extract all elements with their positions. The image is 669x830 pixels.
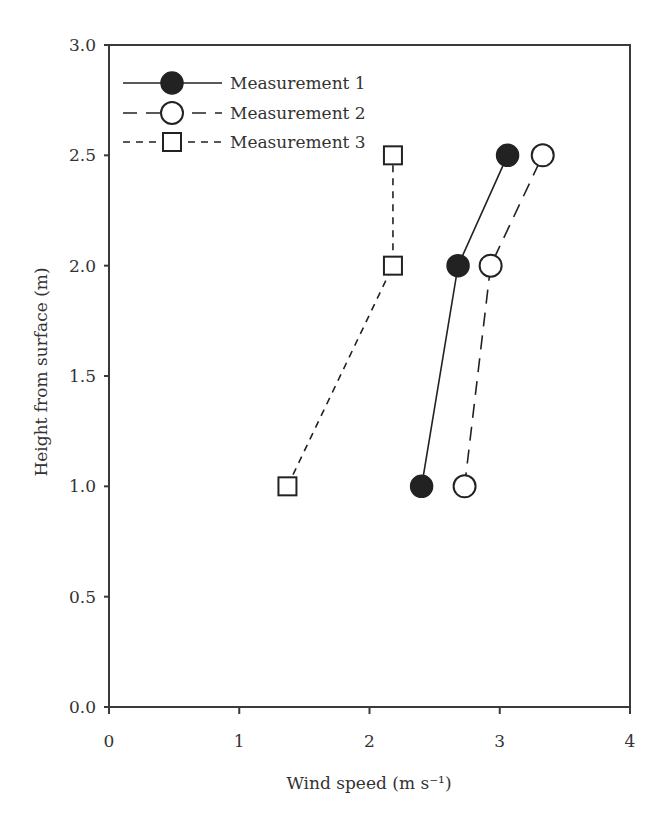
series-line: [422, 155, 508, 486]
open-square-marker: [384, 146, 402, 164]
y-tick-label: 0.0: [69, 697, 96, 717]
y-tick-label: 0.5: [69, 587, 96, 607]
open-circle-marker: [480, 255, 502, 277]
x-tick-label: 0: [104, 731, 115, 751]
filled-circle-marker: [447, 255, 469, 277]
filled-circle-marker: [497, 144, 519, 166]
x-axis-ticks: 01234: [104, 707, 636, 751]
series-3: [278, 146, 402, 495]
y-axis-ticks: 0.00.51.01.52.02.53.0: [69, 35, 109, 717]
legend-item-3: Measurement 3: [123, 132, 366, 152]
filled-circle-marker: [411, 475, 433, 497]
legend-label: Measurement 1: [230, 73, 366, 93]
open-square-marker: [384, 257, 402, 275]
x-tick-label: 4: [625, 731, 636, 751]
y-tick-label: 1.5: [69, 366, 96, 386]
series-2: [454, 144, 554, 497]
x-tick-label: 1: [234, 731, 245, 751]
plot-frame: [109, 45, 630, 707]
y-tick-label: 2.0: [69, 256, 96, 276]
legend-item-1: Measurement 1: [123, 72, 366, 94]
data-series: [278, 144, 553, 497]
open-square-marker-legend: [163, 133, 181, 151]
open-square-marker: [278, 477, 296, 495]
y-axis-title: Height from surface (m): [31, 267, 51, 476]
x-tick-label: 3: [494, 731, 505, 751]
open-circle-marker: [454, 475, 476, 497]
plot-border: [109, 45, 630, 707]
series-line: [287, 155, 393, 486]
series-line: [465, 155, 543, 486]
open-circle-marker-legend: [161, 102, 183, 124]
y-tick-label: 2.5: [69, 145, 96, 165]
legend-item-2: Measurement 2: [123, 102, 366, 124]
legend-label: Measurement 3: [230, 132, 366, 152]
y-tick-label: 3.0: [69, 35, 96, 55]
legend: Measurement 1Measurement 2Measurement 3: [123, 72, 366, 152]
open-circle-marker: [532, 144, 554, 166]
series-1: [411, 144, 519, 497]
y-tick-label: 1.0: [69, 476, 96, 496]
x-axis-title: Wind speed (m s⁻¹): [286, 773, 451, 793]
legend-label: Measurement 2: [230, 103, 366, 123]
x-tick-label: 2: [364, 731, 375, 751]
wind-profile-chart: 01234 0.00.51.01.52.02.53.0 Wind speed (…: [0, 0, 669, 830]
filled-circle-marker-legend: [161, 72, 183, 94]
